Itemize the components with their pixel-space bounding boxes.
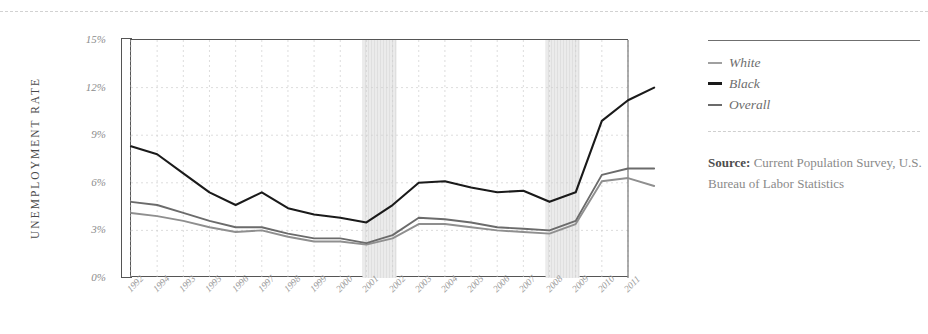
series-line-black	[131, 88, 654, 223]
y-axis-title: UNEMPLOYMENT RATE	[29, 53, 41, 263]
y-tick-label: 3%	[62, 223, 106, 235]
unemployment-rate-chart-figure: UNEMPLOYMENT RATE 0%3%6%9%12%15% 1992199…	[0, 0, 928, 334]
legend-swatch-icon	[708, 104, 722, 106]
data-series-lines	[131, 40, 628, 278]
y-tick-label: 0%	[62, 271, 106, 283]
source-label: Source:	[708, 155, 750, 170]
y-tick-label: 12%	[62, 81, 106, 93]
chart-panel: UNEMPLOYMENT RATE 0%3%6%9%12%15% 1992199…	[0, 0, 672, 334]
x-axis-tick-labels: 1992199419931995199619971998199920002001…	[0, 283, 672, 334]
legend-swatch-icon	[708, 62, 722, 64]
legend-item-white[interactable]: White	[708, 52, 920, 73]
legend-label: Black	[729, 76, 760, 92]
chart-legend: WhiteBlackOverall	[708, 52, 920, 115]
side-panel-top-rule	[708, 40, 920, 41]
plot-area	[131, 39, 628, 277]
y-tick-label: 6%	[62, 176, 106, 188]
y-axis-line-outer	[121, 38, 122, 278]
y-tick-label: 9%	[62, 128, 106, 140]
y-tick-label: 15%	[62, 33, 106, 45]
legend-item-black[interactable]: Black	[708, 73, 920, 94]
legend-label: White	[729, 55, 761, 71]
legend-label: Overall	[729, 97, 770, 113]
source-note: Source: Current Population Survey, U.S. …	[708, 152, 924, 194]
legend-swatch-icon	[708, 82, 722, 85]
legend-item-overall[interactable]: Overall	[708, 94, 920, 115]
side-panel-bottom-rule	[708, 131, 920, 132]
chart-side-panel: WhiteBlackOverall Source: Current Popula…	[700, 0, 928, 334]
